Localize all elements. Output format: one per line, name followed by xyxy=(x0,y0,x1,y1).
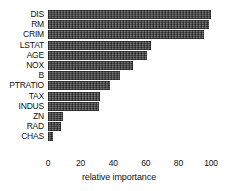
bar-category-label: RM xyxy=(0,19,44,29)
bar-category-label: NOX xyxy=(0,60,44,70)
bar-fill xyxy=(48,20,209,29)
bar-fill xyxy=(48,71,120,80)
bar-fill xyxy=(48,132,53,141)
bar-row: CHAS xyxy=(0,132,238,142)
bar xyxy=(48,51,147,60)
bar xyxy=(48,71,120,80)
bar-fill xyxy=(48,61,133,70)
bar xyxy=(48,102,99,111)
bar-category-label: AGE xyxy=(0,50,44,60)
bar xyxy=(48,10,211,19)
bar xyxy=(48,132,53,141)
bar-category-label: DIS xyxy=(0,9,44,19)
bar-category-label: CRIM xyxy=(0,29,44,39)
bar-fill xyxy=(48,112,63,121)
bar xyxy=(48,122,61,131)
bar-fill xyxy=(48,10,211,19)
bar-fill xyxy=(48,51,147,60)
bar-fill xyxy=(48,30,204,39)
bar xyxy=(48,20,209,29)
bar xyxy=(48,30,204,39)
bar-category-label: TAX xyxy=(0,91,44,101)
x-tick-label: 60 xyxy=(141,158,150,168)
bar-fill xyxy=(48,92,100,101)
bar-category-label: INDUS xyxy=(0,101,44,111)
x-tick-label: 0 xyxy=(46,158,51,168)
bar-category-label: RAD xyxy=(0,121,44,131)
bar xyxy=(48,112,63,121)
bar xyxy=(48,81,110,90)
bar-fill xyxy=(48,41,151,50)
plot-area: DISRMCRIMLSTATAGENOXBPTRATIOTAXINDUSZNRA… xyxy=(0,0,238,152)
bar xyxy=(48,41,151,50)
relative-importance-bar-chart: DISRMCRIMLSTATAGENOXBPTRATIOTAXINDUSZNRA… xyxy=(0,0,238,191)
bar-fill xyxy=(48,122,61,131)
bar xyxy=(48,61,133,70)
bar xyxy=(48,92,100,101)
bar-fill xyxy=(48,102,99,111)
bar-category-label: B xyxy=(0,70,44,80)
x-axis: relative importance 020406080100 xyxy=(0,152,238,191)
x-tick-label: 40 xyxy=(109,158,118,168)
x-tick-label: 20 xyxy=(76,158,85,168)
bar-category-label: ZN xyxy=(0,111,44,121)
bar-fill xyxy=(48,81,110,90)
bar-category-label: CHAS xyxy=(0,131,44,141)
x-axis-title: relative importance xyxy=(0,172,238,183)
x-tick-label: 100 xyxy=(204,158,218,168)
bar-category-label: PTRATIO xyxy=(0,80,44,90)
bar-category-label: LSTAT xyxy=(0,40,44,50)
x-tick-label: 80 xyxy=(174,158,183,168)
